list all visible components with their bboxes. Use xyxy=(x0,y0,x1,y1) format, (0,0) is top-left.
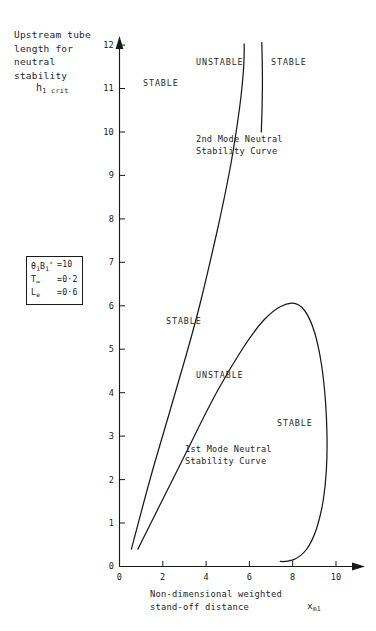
x-axis-arrowhead xyxy=(352,563,365,571)
curve-2nd-mode-left-branch xyxy=(131,44,244,549)
xtick-label-6: 6 xyxy=(242,572,256,582)
y-axis-ticks xyxy=(120,45,126,566)
annotation-stable-lower-right: STABLE xyxy=(277,418,313,428)
ytick-label-10: 10 xyxy=(100,127,114,137)
ytick-label-9: 9 xyxy=(100,170,114,180)
ytick-label-11: 11 xyxy=(100,83,114,93)
ytick-label-3: 3 xyxy=(100,431,114,441)
curve-1st-mode-lobe xyxy=(138,303,327,561)
xtick-label-4: 4 xyxy=(199,572,213,582)
ytick-label-7: 7 xyxy=(100,257,114,267)
x-axis-symbol: xm1 xyxy=(307,600,321,613)
xtick-label-0: 0 xyxy=(113,572,127,582)
stability-chart-figure: Upstream tube length for neutral stabili… xyxy=(0,0,376,631)
ytick-label-0: 0 xyxy=(100,561,114,571)
annotation-stable-top-right: STABLE xyxy=(271,57,307,67)
x-axis-ticks xyxy=(120,561,337,567)
ytick-label-6: 6 xyxy=(100,301,114,311)
x-axis xyxy=(120,563,366,571)
ytick-label-12: 12 xyxy=(100,40,114,50)
xtick-label-10: 10 xyxy=(329,572,343,582)
y-axis-arrowhead xyxy=(116,36,124,49)
ytick-label-2: 2 xyxy=(100,475,114,485)
x-axis-caption: Non-dimensional weighted stand-off dista… xyxy=(150,588,282,613)
curve-2nd-mode-right-branch xyxy=(261,43,262,133)
ytick-label-4: 4 xyxy=(100,388,114,398)
ytick-label-5: 5 xyxy=(100,344,114,354)
x-axis-symbol-subscript: m1 xyxy=(313,605,321,613)
ytick-label-1: 1 xyxy=(100,518,114,528)
xtick-label-8: 8 xyxy=(286,572,300,582)
annotation-unstable-top: UNSTABLE xyxy=(196,57,244,67)
caption-2nd-mode-curve: 2nd Mode Neutral Stability Curve xyxy=(196,133,283,157)
xtick-label-2: 2 xyxy=(156,572,170,582)
ytick-label-8: 8 xyxy=(100,214,114,224)
annotation-stable-mid: STABLE xyxy=(166,316,202,326)
annotation-unstable-mid: UNSTABLE xyxy=(196,370,244,380)
caption-1st-mode-curve: 1st Mode Neutral Stability Curve xyxy=(185,443,272,467)
annotation-stable-top-left: STABLE xyxy=(143,78,179,88)
y-axis xyxy=(116,36,124,566)
